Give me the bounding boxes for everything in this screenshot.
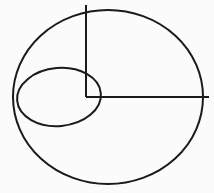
figure-canvas [0,0,214,193]
line-drawing-svg [0,0,214,193]
